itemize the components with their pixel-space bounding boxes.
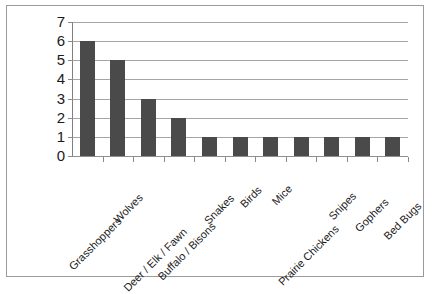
x-axis-label-8: Snipes — [326, 190, 358, 222]
x-axis-label-5: Birds — [238, 184, 264, 210]
x-axis-label-4: Snakes — [202, 192, 237, 227]
y-axis-tick-labels: 01234567 — [41, 6, 65, 276]
x-axis-label-7: Prairie Chickens — [276, 223, 341, 288]
bar[interactable] — [324, 137, 339, 156]
x-tick-mark — [164, 157, 165, 162]
bar[interactable] — [202, 137, 217, 156]
x-axis-tick-marks — [72, 157, 409, 163]
y-tick-label-1: 1 — [43, 129, 65, 144]
y-tick-mark-1 — [68, 137, 73, 138]
x-tick-mark — [194, 157, 195, 162]
bars-layer — [72, 22, 408, 156]
x-axis-label-9: Gophers — [353, 196, 391, 234]
y-tick-label-4: 4 — [43, 71, 65, 86]
x-tick-mark — [286, 157, 287, 162]
bar[interactable] — [263, 137, 278, 156]
y-tick-mark-6 — [68, 41, 73, 42]
x-axis-label-10: Bed Bugs — [381, 200, 423, 242]
x-axis-label-2: Deer / Elk / Fawn — [121, 226, 189, 294]
y-tick-label-3: 3 — [43, 91, 65, 106]
y-tick-label-6: 6 — [43, 33, 65, 48]
x-tick-mark — [408, 157, 409, 162]
y-tick-mark-4 — [68, 79, 73, 80]
bar[interactable] — [385, 137, 400, 156]
y-tick-mark-5 — [68, 60, 73, 61]
bar[interactable] — [110, 60, 125, 156]
bar[interactable] — [141, 99, 156, 156]
y-tick-label-5: 5 — [43, 52, 65, 67]
bar[interactable] — [233, 137, 248, 156]
y-tick-label-0: 0 — [43, 148, 65, 163]
y-tick-label-2: 2 — [43, 110, 65, 125]
x-axis-label-0: Grasshoppers — [67, 215, 124, 272]
x-tick-mark — [347, 157, 348, 162]
plot-area — [72, 22, 408, 156]
x-tick-mark — [133, 157, 134, 162]
x-axis-label-1: Wolves — [111, 191, 145, 225]
chart-frame: 01234567 GrasshoppersWolvesDeer / Elk / … — [6, 5, 424, 277]
bar[interactable] — [294, 137, 309, 156]
x-axis-label-6: Mice — [269, 182, 294, 207]
y-tick-label-7: 7 — [43, 14, 65, 29]
x-tick-mark — [103, 157, 104, 162]
x-tick-mark — [255, 157, 256, 162]
bar[interactable] — [80, 41, 95, 156]
bar[interactable] — [171, 118, 186, 156]
y-tick-mark-3 — [68, 99, 73, 100]
y-tick-mark-7 — [68, 22, 73, 23]
x-tick-mark — [377, 157, 378, 162]
y-tick-mark-2 — [68, 118, 73, 119]
bar[interactable] — [355, 137, 370, 156]
x-tick-mark — [316, 157, 317, 162]
x-tick-mark — [225, 157, 226, 162]
y-tick-mark-0 — [68, 156, 73, 157]
x-axis-label-3: Buffalo / Bisons — [155, 220, 217, 282]
